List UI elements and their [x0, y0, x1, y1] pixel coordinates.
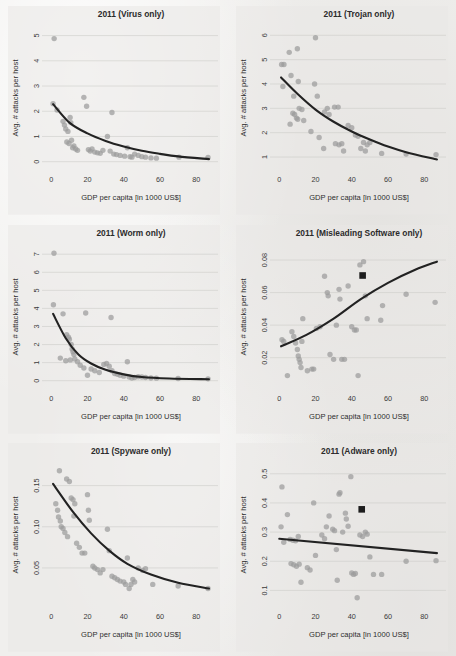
svg-text:GDP per capita [in 1000 US$]: GDP per capita [in 1000 US$] [81, 412, 181, 421]
svg-text:2011 (Misleading Software only: 2011 (Misleading Software only) [296, 228, 423, 238]
svg-text:GDP per capita [in 1000 US$]: GDP per capita [in 1000 US$] [309, 630, 409, 639]
svg-text:2: 2 [260, 131, 269, 135]
svg-text:20: 20 [311, 394, 319, 403]
svg-text:0.2: 0.2 [260, 557, 269, 567]
svg-text:2011 (Spyware only): 2011 (Spyware only) [91, 446, 171, 456]
svg-text:0.04: 0.04 [260, 318, 269, 332]
svg-text:2011 (Virus only): 2011 (Virus only) [98, 9, 165, 19]
svg-text:0.15: 0.15 [32, 479, 41, 493]
svg-text:0.10: 0.10 [32, 520, 41, 534]
svg-text:80: 80 [192, 612, 200, 621]
svg-text:20: 20 [83, 394, 91, 403]
svg-text:6: 6 [260, 33, 269, 37]
svg-text:40: 40 [348, 394, 356, 403]
svg-text:20: 20 [311, 612, 319, 621]
svg-text:40: 40 [348, 612, 356, 621]
svg-text:60: 60 [384, 612, 392, 621]
panel-misleading-software[interactable]: 2011 (Misleading Software only)0.020.040… [228, 219, 456, 438]
svg-text:80: 80 [420, 175, 428, 184]
svg-text:0: 0 [49, 612, 53, 621]
svg-text:60: 60 [156, 612, 164, 621]
svg-text:20: 20 [83, 175, 91, 184]
svg-text:60: 60 [156, 394, 164, 403]
svg-text:80: 80 [192, 394, 200, 403]
svg-text:0.3: 0.3 [260, 527, 269, 537]
svg-text:3: 3 [32, 324, 41, 328]
svg-text:2: 2 [32, 109, 41, 113]
svg-text:GDP per capita [in 1000 US$]: GDP per capita [in 1000 US$] [309, 193, 409, 202]
panel-grid: 2011 (Virus only)012345020406080Avg. # a… [0, 0, 456, 656]
svg-text:4: 4 [32, 306, 41, 310]
svg-text:Avg. # attacks per host: Avg. # attacks per host [239, 59, 248, 137]
svg-text:0: 0 [277, 175, 281, 184]
svg-text:0: 0 [32, 378, 41, 382]
svg-text:0: 0 [277, 612, 281, 621]
panel-adware[interactable]: 2011 (Adware only)0.10.20.30.40.50204060… [228, 437, 456, 656]
svg-text:5: 5 [260, 58, 269, 62]
svg-text:5: 5 [32, 288, 41, 292]
svg-text:40: 40 [120, 394, 128, 403]
svg-text:GDP per capita [in 1000 US$]: GDP per capita [in 1000 US$] [81, 193, 181, 202]
svg-text:Avg. # attacks per host: Avg. # attacks per host [11, 59, 20, 137]
svg-text:80: 80 [192, 175, 200, 184]
svg-text:0: 0 [49, 175, 53, 184]
svg-text:3: 3 [260, 106, 269, 110]
svg-text:Avg. # attacks per host: Avg. # attacks per host [239, 496, 248, 574]
svg-text:GDP per capita [in 1000 US$]: GDP per capita [in 1000 US$] [81, 630, 181, 639]
svg-text:0: 0 [49, 394, 53, 403]
svg-text:0.5: 0.5 [260, 469, 269, 479]
svg-text:2011 (Adware only): 2011 (Adware only) [321, 446, 397, 456]
svg-text:4: 4 [260, 82, 269, 86]
svg-text:GDP per capita [in 1000 US$]: GDP per capita [in 1000 US$] [309, 412, 409, 421]
svg-text:40: 40 [348, 175, 356, 184]
svg-text:80: 80 [420, 612, 428, 621]
svg-text:7: 7 [32, 252, 41, 256]
svg-text:0.06: 0.06 [260, 285, 269, 299]
svg-text:1: 1 [260, 155, 269, 159]
svg-text:0.02: 0.02 [260, 350, 269, 364]
panel-spyware[interactable]: 2011 (Spyware only)0.050.100.15020406080… [0, 437, 228, 656]
svg-text:80: 80 [420, 394, 428, 403]
svg-text:Avg. # attacks per host: Avg. # attacks per host [11, 277, 20, 355]
svg-text:Avg. # attacks per host: Avg. # attacks per host [239, 277, 248, 355]
svg-text:2011 (Worm only): 2011 (Worm only) [96, 228, 165, 238]
svg-text:0.1: 0.1 [260, 586, 269, 596]
svg-text:60: 60 [384, 394, 392, 403]
svg-text:0.05: 0.05 [32, 561, 41, 575]
svg-text:20: 20 [311, 175, 319, 184]
svg-text:Avg. # attacks per host: Avg. # attacks per host [11, 496, 20, 574]
svg-text:0: 0 [32, 160, 41, 164]
svg-text:4: 4 [32, 59, 41, 63]
panel-virus[interactable]: 2011 (Virus only)012345020406080Avg. # a… [0, 0, 228, 219]
svg-text:40: 40 [120, 175, 128, 184]
panel-trojan[interactable]: 2011 (Trojan only)123456020406080Avg. # … [228, 0, 456, 219]
svg-text:2: 2 [32, 342, 41, 346]
svg-text:1: 1 [32, 360, 41, 364]
svg-text:40: 40 [120, 612, 128, 621]
svg-text:0: 0 [277, 394, 281, 403]
svg-text:0.08: 0.08 [260, 253, 269, 267]
svg-text:0.4: 0.4 [260, 498, 269, 508]
svg-text:60: 60 [384, 175, 392, 184]
panel-worm[interactable]: 2011 (Worm only)01234567020406080Avg. # … [0, 219, 228, 438]
svg-text:60: 60 [156, 175, 164, 184]
svg-text:2011 (Trojan only): 2011 (Trojan only) [324, 9, 395, 19]
svg-text:6: 6 [32, 270, 41, 274]
svg-text:1: 1 [32, 134, 41, 138]
svg-text:20: 20 [83, 612, 91, 621]
svg-text:3: 3 [32, 84, 41, 88]
svg-text:5: 5 [32, 34, 41, 38]
